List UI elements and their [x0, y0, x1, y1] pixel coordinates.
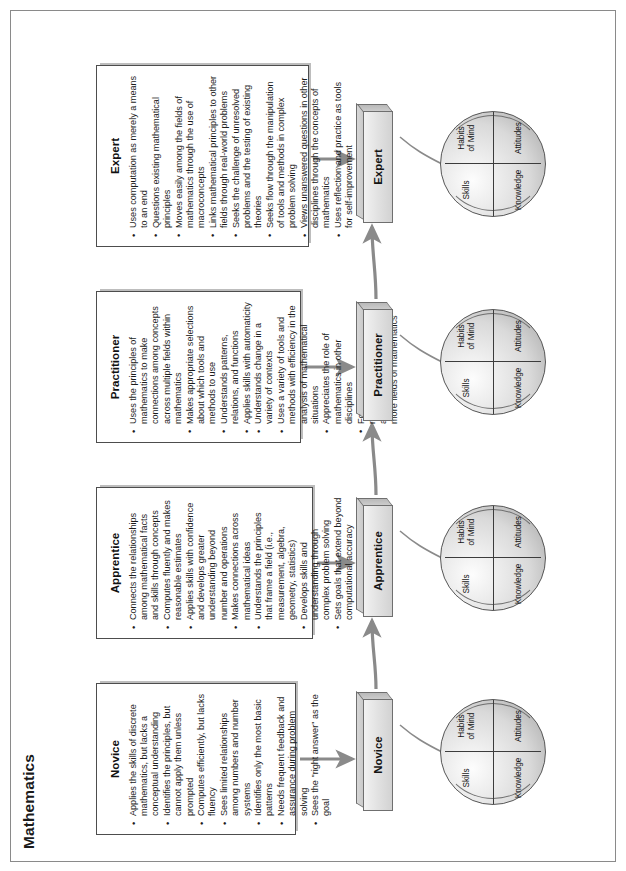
list-item: Sets goals that extend beyond computatio…	[333, 497, 355, 629]
stage-card-expert: Expert Uses computation as merely a mean…	[96, 65, 309, 247]
sphere-quadrant-knowledge: Knowledge	[493, 752, 545, 804]
stage-block-front-face: Apprentice	[363, 505, 393, 617]
stage-block-practitioner: Practitioner	[356, 303, 398, 421]
sphere-quadrant-skills: Skills	[441, 752, 493, 804]
sphere-quadrant-habits-of-mind: Habitsof Mind	[441, 700, 493, 752]
stage-block-front-face: Expert	[363, 111, 393, 223]
sphere-quadrant-knowledge: Knowledge	[493, 362, 545, 414]
list-item: Uses the principles of mathematics to ma…	[128, 301, 184, 433]
list-item: Uses a variety of tools and methods with…	[276, 301, 321, 433]
quadrant-sphere-practitioner: Skills Habitsof Mind Knowledge Attitudes	[440, 309, 546, 415]
list-item: Applies skills with confidence and devel…	[185, 497, 230, 629]
quadrant-sphere-novice: Skills Habitsof Mind Knowledge Attitudes	[440, 699, 546, 805]
sphere-quadrant-attitudes: Attitudes	[493, 700, 545, 752]
stage-card-title: Apprentice	[108, 497, 121, 629]
list-item: Uses reflection and practice as tools fo…	[333, 75, 355, 237]
quadrant-sphere-apprentice: Skills Habitsof Mind Knowledge Attitudes	[440, 505, 546, 611]
list-item: Questions existing mathematical principl…	[151, 75, 173, 237]
sphere-quadrant-knowledge: Knowledge	[493, 558, 545, 610]
list-item: Applies skills with automaticity	[242, 301, 253, 433]
list-item: Makes connections across mathematical id…	[230, 497, 252, 629]
stage-block-novice: Novice	[356, 693, 398, 811]
list-item: Views unanswered questions in other disc…	[299, 75, 333, 237]
list-item: Links mathematical principles to other f…	[208, 75, 230, 237]
stage-card-title: Practitioner	[108, 301, 121, 433]
sphere-quadrant-knowledge: Knowledge	[493, 164, 545, 216]
list-item: Sees limited relationships among numbers…	[219, 693, 253, 825]
sphere-quadrant-habits-of-mind: Habitsof Mind	[441, 310, 493, 362]
stage-bullet-list: Applies the skills of discrete mathemati…	[128, 693, 333, 825]
sphere-quadrant-habits-of-mind: Habitsof Mind	[441, 506, 493, 558]
list-item: Sees the "right answer" as the goal	[310, 693, 332, 825]
list-item: Identifies the principles, but cannot ap…	[162, 693, 196, 825]
diagram-canvas: Mathematics	[0, 0, 626, 871]
sphere-quadrant-attitudes: Attitudes	[493, 112, 545, 164]
stage-block-label: Apprentice	[372, 531, 384, 591]
sphere-quadrant-attitudes: Attitudes	[493, 506, 545, 558]
stage-block-label: Expert	[372, 149, 384, 184]
stage-block-front-face: Novice	[363, 699, 393, 811]
sphere-quadrant-skills: Skills	[441, 164, 493, 216]
stage-bullet-list: Uses computation as merely a means to an…	[128, 75, 356, 237]
sphere-quadrant-habits-of-mind: Habitsof Mind	[441, 112, 493, 164]
list-item: Connects the relationships among mathema…	[128, 497, 162, 629]
stage-card-title: Novice	[108, 693, 121, 825]
list-item: Computes efficiently, but lacks fluency	[196, 693, 218, 825]
stage-block-label: Practitioner	[372, 333, 384, 396]
sphere-quadrant-skills: Skills	[441, 558, 493, 610]
stage-card-practitioner: Practitioner Uses the principles of math…	[96, 291, 301, 443]
list-item: Moves easily among the fields of mathema…	[174, 75, 208, 237]
list-item: Understands patterns, relations, and fun…	[219, 301, 241, 433]
stage-block-front-face: Practitioner	[363, 309, 393, 421]
list-item: Seeks flow through the manipulation of t…	[265, 75, 299, 237]
list-item: Develops skills and understanding throug…	[299, 497, 333, 629]
list-item: Uses computation as merely a means to an…	[128, 75, 150, 237]
list-item: Appreciates the role of mathematics in o…	[321, 301, 355, 433]
stage-block-apprentice: Apprentice	[356, 499, 398, 617]
list-item: Makes appropriate selections about which…	[185, 301, 219, 433]
stage-bullet-list: Connects the relationships among mathema…	[128, 497, 355, 629]
list-item: Identifies only the most basic patterns	[253, 693, 275, 825]
stage-card-novice: Novice Applies the skills of discrete ma…	[96, 683, 296, 835]
sphere-quadrant-skills: Skills	[441, 362, 493, 414]
stage-card-title: Expert	[108, 75, 121, 237]
list-item: Needs frequent feedback and assurance du…	[276, 693, 310, 825]
quadrant-sphere-expert: Skills Habitsof Mind Knowledge Attitudes	[440, 111, 546, 217]
list-item: Understands change in a variety of conte…	[253, 301, 275, 433]
stage-block-expert: Expert	[356, 105, 398, 223]
stage-block-label: Novice	[372, 736, 384, 773]
stage-card-apprentice: Apprentice Connects the relationships am…	[96, 487, 313, 639]
page-title: Mathematics	[20, 754, 38, 849]
list-item: Understands the principles that frame a …	[253, 497, 298, 629]
list-item: Applies the skills of discrete mathemati…	[128, 693, 162, 825]
list-item: Computes fluently and makes reasonable e…	[162, 497, 184, 629]
list-item: Seeks the challenge of unresolved proble…	[231, 75, 265, 237]
rotated-diagram-canvas: Mathematics	[0, 0, 626, 871]
sphere-quadrant-attitudes: Attitudes	[493, 310, 545, 362]
